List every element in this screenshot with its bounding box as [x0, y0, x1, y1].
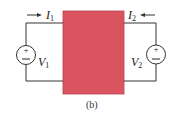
figure-caption: (b) [86, 100, 98, 110]
voltage-label-2: V2 [131, 56, 142, 70]
voltage-label-1: V1 [38, 56, 49, 70]
current-label-2: I2 [128, 9, 136, 23]
current-label-1: I1 [46, 9, 54, 23]
two-port-box [63, 11, 124, 94]
plus-sign-2: + [153, 44, 158, 54]
right-port-wire [124, 23, 156, 45]
plus-sign-1: + [23, 45, 28, 55]
left-port-wire [26, 23, 63, 46]
